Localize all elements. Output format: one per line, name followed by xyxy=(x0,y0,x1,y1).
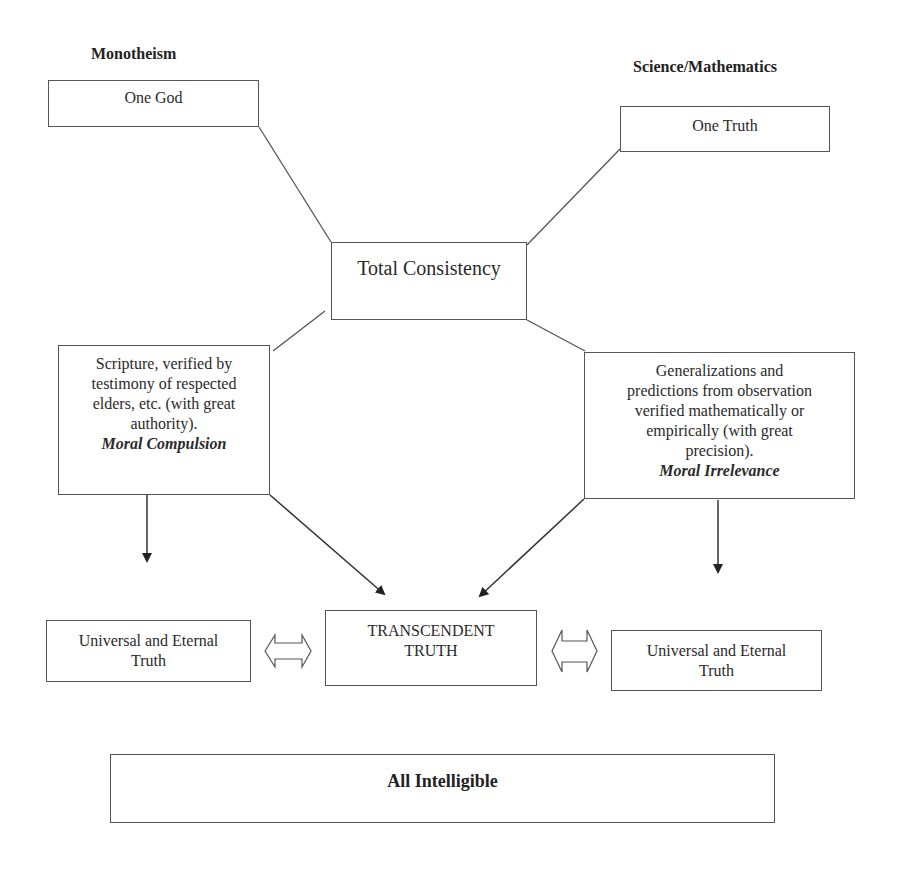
node-right-truth-line2: Truth xyxy=(612,661,821,681)
node-monotheism-method: Scripture, verified by testimony of resp… xyxy=(58,345,270,495)
node-transcendent-line1: TRANSCENDENT xyxy=(326,621,536,641)
node-left-truth-line2: Truth xyxy=(47,651,250,671)
heading-science-mathematics: Science/Mathematics xyxy=(633,58,777,76)
node-all-intelligible-label: All Intelligible xyxy=(111,771,774,792)
node-right-universal-truth: Universal and Eternal Truth xyxy=(611,630,822,691)
connector-consistency-to-right xyxy=(527,320,585,351)
node-one-god: One God xyxy=(48,80,259,127)
method-line: Generalizations and xyxy=(585,361,854,381)
node-science-method: Generalizations and predictions from obs… xyxy=(584,352,855,499)
arrow-left-method-to-transcendent xyxy=(270,495,384,594)
double-arrow-right-icon xyxy=(552,630,597,672)
node-total-consistency: Total Consistency xyxy=(331,242,527,320)
method-line: testimony of respected xyxy=(59,374,269,394)
node-right-truth-line1: Universal and Eternal xyxy=(612,641,821,661)
node-transcendent-line2: TRUTH xyxy=(326,641,536,661)
method-line: verified mathematically or xyxy=(585,401,854,421)
node-one-truth-label: One Truth xyxy=(621,117,829,135)
arrow-right-method-to-transcendent xyxy=(480,499,584,596)
node-one-truth: One Truth xyxy=(620,106,830,152)
node-left-universal-truth: Universal and Eternal Truth xyxy=(46,620,251,682)
method-line: Scripture, verified by xyxy=(59,354,269,374)
method-line: elders, etc. (with great xyxy=(59,394,269,414)
method-line: predictions from observation xyxy=(585,381,854,401)
moral-irrelevance-label: Moral Irrelevance xyxy=(585,461,854,481)
node-all-intelligible: All Intelligible xyxy=(110,754,775,823)
moral-compulsion-label: Moral Compulsion xyxy=(59,434,269,454)
node-transcendent-truth: TRANSCENDENT TRUTH xyxy=(325,610,537,686)
method-line: authority). xyxy=(59,414,269,434)
double-arrow-left-icon xyxy=(265,635,311,667)
method-line: empirically (with great xyxy=(585,421,854,441)
connector-consistency-to-left xyxy=(273,311,325,351)
node-total-consistency-label: Total Consistency xyxy=(332,257,526,280)
node-one-god-label: One God xyxy=(49,89,258,107)
heading-monotheism: Monotheism xyxy=(91,45,176,63)
connector-one-god-to-consistency xyxy=(259,127,331,242)
method-line: precision). xyxy=(585,441,854,461)
connector-one-truth-to-consistency xyxy=(527,149,620,245)
node-left-truth-line1: Universal and Eternal xyxy=(47,631,250,651)
